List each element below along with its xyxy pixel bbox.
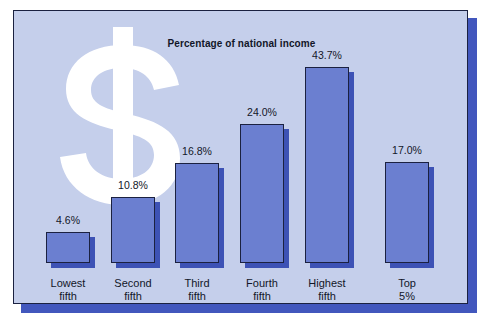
bar-category-label-line2: fifth (246, 290, 278, 303)
bar-body (175, 163, 219, 263)
bar-category-label: Fourth fifth (246, 277, 278, 303)
bar-category-label: Third fifth (184, 277, 209, 303)
plot-area: 4.6% Lowest fifth 10.8% Second fifth (14, 11, 468, 304)
bar-category-label-line1: Top (398, 277, 416, 290)
bar-body (240, 124, 284, 263)
bar-value-label: 16.8% (182, 145, 212, 157)
bar-category-label-line2: 5% (398, 290, 416, 303)
bar-category-label-line2: fifth (308, 290, 345, 303)
bar-value-label: 43.7% (312, 49, 342, 61)
bar-category-label-line2: fifth (184, 290, 209, 303)
bar-value-label: 17.0% (392, 144, 422, 156)
bar-lowest-fifth[interactable]: 4.6% Lowest fifth (46, 232, 90, 263)
chart-panel: Percentage of national income 4.6% Lowes… (13, 10, 468, 304)
bar-value-label: 10.8% (118, 179, 148, 191)
bar-body (111, 197, 155, 263)
bar-body (305, 67, 349, 263)
bar-category-label: Second fifth (114, 277, 151, 303)
bar-category-label-line2: fifth (114, 290, 151, 303)
bar-highest-fifth[interactable]: 43.7% Highest fifth (305, 67, 349, 263)
bar-category-label-line1: Lowest (51, 277, 86, 290)
bar-category-label: Lowest fifth (51, 277, 86, 303)
bar-body (46, 232, 90, 263)
bar-second-fifth[interactable]: 10.8% Second fifth (111, 197, 155, 263)
bar-category-label: Highest fifth (308, 277, 345, 303)
bar-category-label: Top 5% (398, 277, 416, 303)
bar-value-label: 4.6% (56, 214, 80, 226)
bar-value-label: 24.0% (247, 106, 277, 118)
bar-fourth-fifth[interactable]: 24.0% Fourth fifth (240, 124, 284, 263)
chart-figure: Percentage of national income 4.6% Lowes… (0, 0, 488, 326)
bar-category-label-line1: Third (184, 277, 209, 290)
bar-category-label-line2: fifth (51, 290, 86, 303)
bar-category-label-line1: Highest (308, 277, 345, 290)
bar-body (385, 162, 429, 263)
bar-top-5-percent[interactable]: 17.0% Top 5% (385, 162, 429, 263)
bar-category-label-line1: Second (114, 277, 151, 290)
bar-third-fifth[interactable]: 16.8% Third fifth (175, 163, 219, 263)
bar-category-label-line1: Fourth (246, 277, 278, 290)
